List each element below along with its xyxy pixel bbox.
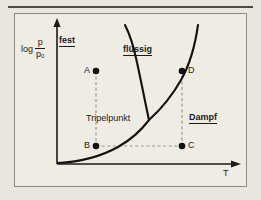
point-label-c: C — [188, 141, 195, 150]
state-point-a[interactable] — [93, 68, 100, 75]
point-label-a: A — [84, 66, 90, 75]
region-label-fest: fest — [59, 36, 75, 47]
phase-diagram-figure: log p p0 T fest flüssig Dampf Tripelpunk… — [14, 13, 247, 187]
y-axis-label-numerator: p — [37, 38, 44, 48]
y-axis-label-fraction: p p0 — [35, 38, 45, 59]
y-axis-label: log p p0 — [21, 38, 45, 59]
x-axis-arrowhead — [231, 160, 241, 167]
annotation-tripelpunkt: Tripelpunkt — [86, 114, 130, 123]
melting-curve — [125, 25, 149, 120]
point-label-d: D — [188, 66, 195, 75]
top-divider-rule — [8, 6, 253, 8]
region-label-fluessig: flüssig — [123, 45, 152, 56]
region-label-dampf: Dampf — [189, 113, 217, 124]
x-axis-label: T — [223, 169, 229, 178]
page-root: log p p0 T fest flüssig Dampf Tripelpunk… — [0, 0, 261, 200]
sublimation-curve — [58, 120, 149, 163]
y-axis-label-denominator: p0 — [35, 49, 45, 59]
state-point-b[interactable] — [93, 143, 100, 150]
point-label-b: B — [84, 141, 90, 150]
y-axis-label-log: log — [21, 44, 33, 54]
phase-diagram-plot — [15, 14, 247, 187]
state-point-c[interactable] — [179, 143, 186, 150]
state-point-d[interactable] — [179, 68, 186, 75]
y-axis-arrowhead — [53, 18, 60, 27]
